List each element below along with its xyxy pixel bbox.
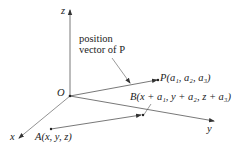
annotation-pointer [112, 58, 130, 83]
point-a [50, 128, 52, 130]
vector-ab [51, 115, 141, 129]
y-axis-label: y [207, 124, 212, 135]
point-a-label: A(x, y, z) [35, 132, 72, 143]
point-p-label: P(a₁, a₂, a₃) [160, 73, 211, 84]
vector-diagram: z y x O position vector of P P(a₁, a₂, a… [0, 0, 235, 151]
z-axis-label: z [61, 6, 65, 17]
annotation-line-2: vector of P [79, 45, 125, 56]
annotation-line-1: position [79, 34, 113, 45]
point-p [157, 79, 159, 81]
x-axis-label: x [10, 132, 15, 143]
origin-point [69, 95, 72, 98]
point-b [142, 114, 144, 116]
origin-label: O [57, 88, 65, 99]
point-b-label: B(x + a₁, y + a₂, z + a₃) [130, 92, 231, 103]
